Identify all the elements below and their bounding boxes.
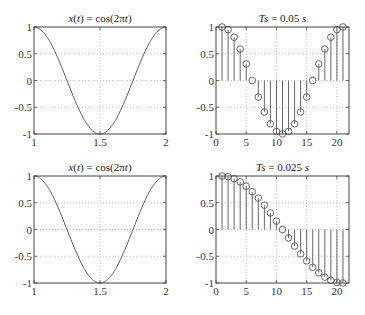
x-tick-label: 0 [213,136,219,148]
x-tick-label: 5 [243,136,249,148]
x-tick-label: 15 [301,136,313,148]
y-tick-label: -0.5 [15,101,33,113]
y-tick-label: 0 [27,75,33,87]
y-tick-label: 0.5 [200,48,214,60]
x-tick-label: 0 [213,285,219,297]
plot-stem-ts0025: 05101520-1-0.500.51Ts = 0.025 s [197,161,349,297]
y-tick-label: 1 [27,21,33,33]
chart-title: Ts = 0.025 s [256,161,309,173]
chart-title: x(t) = cos(2πt) [67,12,131,25]
y-tick-label: -1 [205,128,214,140]
y-tick-label: -0.5 [197,250,215,262]
y-tick-label: 0 [209,75,215,87]
x-tick-label: 1 [31,285,37,297]
x-tick-label: 5 [243,285,249,297]
y-tick-label: -1 [205,277,214,289]
y-tick-label: 1 [209,170,215,182]
y-tick-label: 0.5 [18,197,32,209]
plot-continuous-bottom: 11.52-1-0.500.51x(t) = cos(2πt) [15,161,169,297]
x-tick-label: 2 [163,285,169,297]
x-tick-label: 20 [331,285,343,297]
plot-stem-ts005: 05101520-1-0.500.51Ts = 0.05 s [197,12,349,148]
y-tick-label: 0 [209,224,215,236]
x-tick-label: 2 [163,136,169,148]
y-tick-label: -1 [23,128,32,140]
y-tick-label: 1 [27,170,33,182]
y-tick-label: 1 [209,21,215,33]
x-tick-label: 15 [301,285,313,297]
y-tick-label: 0.5 [18,48,32,60]
plot-continuous-top: 11.52-1-0.500.51x(t) = cos(2πt) [15,12,169,148]
x-tick-label: 1.5 [93,285,107,297]
chart-title: x(t) = cos(2πt) [67,161,131,174]
x-tick-label: 10 [271,136,283,148]
figure: 11.52-1-0.500.51x(t) = cos(2πt)05101520-… [0,0,365,315]
y-tick-label: -0.5 [15,250,33,262]
x-tick-label: 20 [331,136,343,148]
y-tick-label: -0.5 [197,101,215,113]
x-tick-label: 1 [31,136,37,148]
x-tick-label: 10 [271,285,283,297]
y-tick-label: 0 [27,224,33,236]
chart-title: Ts = 0.05 s [259,12,306,24]
x-tick-label: 1.5 [93,136,107,148]
y-tick-label: -1 [23,277,32,289]
y-tick-label: 0.5 [200,197,214,209]
